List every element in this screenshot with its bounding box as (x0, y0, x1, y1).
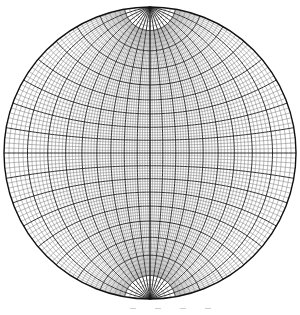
mark (155, 308, 161, 309)
mark (130, 308, 136, 309)
wulff-net-diagram (0, 0, 300, 315)
bottom-marks (120, 308, 220, 312)
mark (205, 308, 211, 309)
major-grid-lines (4, 7, 296, 299)
mark (180, 308, 186, 309)
